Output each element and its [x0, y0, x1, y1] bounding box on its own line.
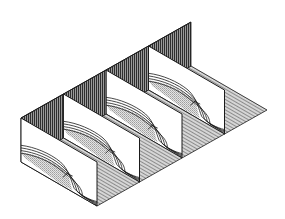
sections-group [21, 22, 267, 206]
block-diagram [0, 0, 285, 219]
